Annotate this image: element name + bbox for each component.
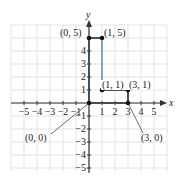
x-tick-label: −3 [45,106,56,117]
label-1-5: (1, 5) [104,27,126,39]
label-3-0: (3, 0) [141,132,163,144]
y-tick-label: −4 [75,149,86,160]
y-axis-arrow-icon [86,20,92,27]
label-1-1: (1, 1) [102,79,124,91]
y-tick-label: −5 [75,162,86,173]
x-tick-label: 5 [152,106,157,117]
axes [11,24,163,173]
y-tick-label: −3 [75,136,86,147]
y-tick-label: 1 [81,84,86,95]
y-tick-label: 3 [81,58,86,69]
polygon-edge-dark [89,38,102,103]
vertex-3-0 [126,101,131,106]
l-shape-polygon [89,38,128,103]
polygon-edge-bottom [89,90,128,103]
x-tick-label: 1 [100,106,105,117]
x-tick-label: 2 [113,106,118,117]
x-tick-label: −2 [58,106,69,117]
x-tick-label: 4 [139,106,144,117]
coordinate-plane: x y −5 −4 −3 −2 −1 1 2 3 4 5 1 2 3 4 −1 … [0,0,183,191]
vertex-0-5 [87,36,92,41]
y-axis-label: y [85,9,91,20]
label-3-1: (3, 1) [129,79,151,91]
x-tick-labels: −5 −4 −3 −2 −1 1 2 3 4 5 [19,106,157,117]
x-tick-label: 3 [126,106,131,117]
x-axis-label: x [168,97,174,108]
x-axis-arrow-icon [160,100,167,106]
y-tick-label: 4 [81,45,86,56]
y-tick-label: −2 [75,123,86,134]
label-0-0: (0, 0) [25,132,47,144]
y-tick-label: −1 [75,110,86,121]
label-0-5: (0, 5) [60,27,82,39]
x-tick-label: −4 [32,106,43,117]
vertex-0-0 [87,101,92,106]
point-labels: (0, 5) (1, 5) (1, 1) (3, 1) (0, 0) (3, 0… [25,27,163,144]
x-tick-label: −5 [19,106,30,117]
y-tick-label: 2 [81,71,86,82]
vertices [87,36,131,106]
